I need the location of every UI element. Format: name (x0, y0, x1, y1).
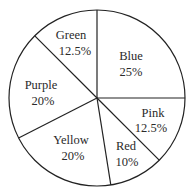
slice-value-pink: 12.5% (135, 121, 167, 135)
slice-label-purple: Purple (25, 78, 58, 92)
pie-chart: Blue 25% Pink 12.5% Red 10% Yellow 20% P… (0, 0, 194, 193)
slice-label-blue: Blue (119, 49, 143, 63)
slice-label-green: Green (56, 28, 87, 42)
slice-value-red: 10% (116, 155, 139, 169)
slice-value-blue: 25% (120, 65, 143, 79)
slice-label-yellow: Yellow (53, 133, 89, 147)
slice-value-yellow: 20% (62, 149, 85, 163)
slice-label-red: Red (116, 139, 137, 153)
slice-value-green: 12.5% (59, 44, 91, 58)
slice-value-purple: 20% (32, 94, 55, 108)
slice-label-pink: Pink (142, 106, 166, 120)
